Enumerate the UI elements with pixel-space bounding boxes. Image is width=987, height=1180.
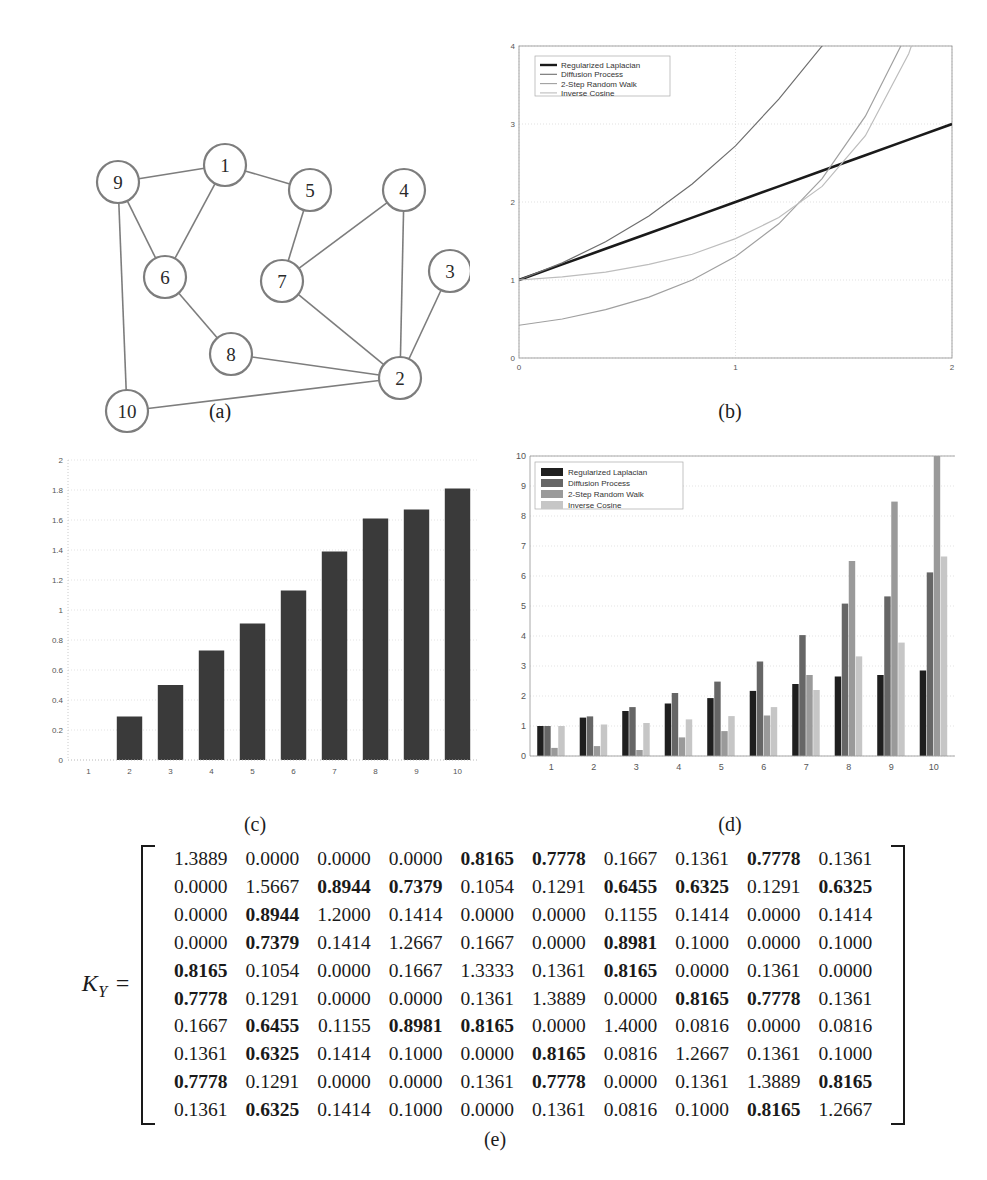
graph-node-8[interactable]: 8	[210, 333, 252, 375]
y-tick-label: 1.8	[52, 486, 64, 495]
x-tick-label: 2	[950, 363, 955, 372]
panel-b-lineplot: 01234012Regularized LaplacianDiffusion P…	[497, 38, 964, 383]
matrix-cell: 1.3889	[523, 985, 595, 1013]
bar-inverse-cosine	[601, 725, 607, 757]
legend-label: 2-Step Random Walk	[561, 80, 638, 89]
graph-edge	[245, 171, 290, 184]
matrix-cell: 0.0000	[308, 845, 380, 873]
matrix-cell: 0.1054	[237, 957, 309, 985]
bar-inverse-cosine	[728, 716, 734, 756]
y-tick-label: 5	[521, 601, 526, 611]
panel-a-graph: 12345678910	[20, 55, 470, 385]
matrix-cell: 0.8165	[165, 957, 237, 985]
panel-e-matrix: KY = 1.38890.00000.00000.00000.81650.777…	[0, 845, 987, 1125]
graph-edge	[400, 211, 403, 357]
x-tick-label: 9	[414, 767, 419, 776]
graph-node-4[interactable]: 4	[383, 169, 425, 211]
matrix-cell: 0.1414	[380, 901, 452, 929]
matrix-cell: 0.8165	[451, 1013, 523, 1041]
barchart-d-svg: 01234567891012345678910Regularized Lapla…	[505, 448, 965, 793]
figure-root: 12345678910 (a) 01234012Regularized Lapl…	[0, 0, 987, 1180]
panel-d-grouped-barchart: 01234567891012345678910Regularized Lapla…	[505, 448, 965, 790]
y-tick-label: 1.6	[52, 516, 64, 525]
matrix-cell: 0.0000	[523, 929, 595, 957]
y-tick-label: 7	[521, 541, 526, 551]
bar-diffusion-process	[672, 693, 678, 756]
graph-node-1[interactable]: 1	[204, 144, 246, 186]
y-tick-label: 0	[521, 751, 526, 761]
y-tick-label: 2	[511, 198, 516, 207]
matrix-cell: 1.3333	[451, 957, 523, 985]
graph-node-label: 9	[113, 172, 123, 193]
x-tick-label: 5	[250, 767, 255, 776]
matrix-cell: 0.6325	[237, 1097, 309, 1125]
graph-node-6[interactable]: 6	[144, 256, 186, 298]
bar-regularized-laplacian	[877, 675, 883, 756]
bar-2-step-random-walk	[679, 737, 685, 756]
graph-edge	[409, 290, 441, 359]
graph-node-10[interactable]: 10	[106, 390, 148, 432]
matrix-cell: 0.8165	[810, 1069, 882, 1097]
matrix-cell: 0.1361	[810, 985, 882, 1013]
matrix-cell: 0.0000	[666, 957, 738, 985]
graph-node-7[interactable]: 7	[261, 260, 303, 302]
matrix-cell: 0.0000	[165, 873, 237, 901]
y-tick-label: 1	[59, 606, 64, 615]
caption-c: (c)	[215, 813, 295, 836]
y-tick-label: 2	[59, 456, 64, 465]
x-tick-label: 7	[332, 767, 337, 776]
matrix-cell: 0.1361	[523, 957, 595, 985]
bar-2-step-random-walk	[764, 716, 770, 757]
graph-node-3[interactable]: 3	[429, 250, 470, 292]
legend-label: Diffusion Process	[568, 479, 630, 488]
matrix-cell: 0.1414	[308, 929, 380, 957]
matrix-cell: 0.1361	[738, 957, 810, 985]
matrix-cell: 0.0000	[308, 985, 380, 1013]
legend: Regularized LaplacianDiffusion Process2-…	[535, 462, 683, 510]
matrix-cell: 0.1291	[738, 873, 810, 901]
matrix-cell: 0.0000	[165, 929, 237, 957]
graph-node-9[interactable]: 9	[97, 161, 139, 203]
legend-label: Regularized Laplacian	[561, 61, 640, 70]
matrix-cell: 0.0000	[308, 1069, 380, 1097]
matrix-cell: 0.1667	[165, 1013, 237, 1041]
y-tick-label: 1.2	[52, 576, 64, 585]
matrix-cell: 0.1361	[451, 985, 523, 1013]
bar	[281, 591, 306, 761]
graph-node-label: 1	[220, 155, 230, 176]
bar-regularized-laplacian	[537, 726, 543, 756]
graph-nodes: 12345678910	[97, 144, 470, 432]
matrix-bracket-left	[141, 845, 155, 1125]
y-tick-label: 0	[59, 756, 64, 765]
x-tick-label: 5	[719, 762, 724, 772]
graph-edge	[119, 203, 126, 390]
graph-node-label: 4	[399, 180, 409, 201]
y-tick-label: 0.4	[52, 696, 64, 705]
graph-node-2[interactable]: 2	[379, 357, 421, 399]
matrix-cell: 0.0000	[738, 929, 810, 957]
graph-node-label: 5	[305, 180, 315, 201]
bar-diffusion-process	[587, 716, 593, 756]
bar-diffusion-process	[757, 662, 763, 757]
matrix-cell: 1.2667	[666, 1041, 738, 1069]
graph-node-label: 10	[118, 401, 137, 422]
matrix-cell: 0.0000	[380, 1069, 452, 1097]
x-tick-label: 8	[846, 762, 851, 772]
matrix-cell: 0.1000	[380, 1041, 452, 1069]
matrix-cell: 1.2667	[380, 929, 452, 957]
matrix-label-K: K	[82, 970, 99, 996]
matrix-cell: 0.0000	[237, 845, 309, 873]
x-tick-label: 9	[889, 762, 894, 772]
matrix-cell: 0.0000	[738, 901, 810, 929]
matrix-cell: 0.8981	[380, 1013, 452, 1041]
matrix-row: 0.00001.56670.89440.73790.10540.12910.64…	[165, 873, 881, 901]
graph-node-5[interactable]: 5	[289, 169, 331, 211]
matrix-cell: 0.6455	[237, 1013, 309, 1041]
matrix-table: 1.38890.00000.00000.00000.81650.77780.16…	[165, 845, 881, 1125]
x-tick-label: 8	[373, 767, 378, 776]
matrix-bracket-right	[891, 845, 905, 1125]
matrix-cell: 0.0000	[308, 957, 380, 985]
graph-edge	[252, 357, 379, 375]
x-tick-label: 1	[549, 762, 554, 772]
y-tick-label: 3	[511, 120, 516, 129]
